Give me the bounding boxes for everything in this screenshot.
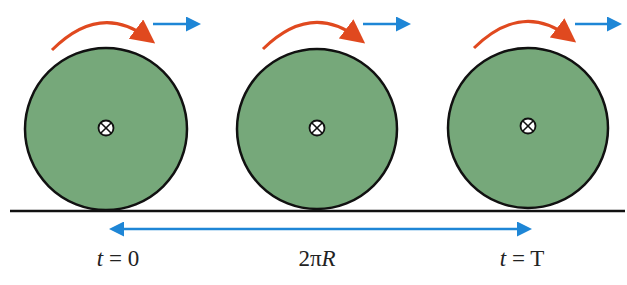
label-rest: = T [506,246,544,271]
rotation-arrow-icon [52,23,148,50]
wheel-t0 [25,23,196,210]
label-distance: 2πR [298,246,335,272]
label-t-end: t = T [500,246,545,272]
into-page-x-icon [521,119,536,134]
label-t-start: t = 0 [97,246,139,272]
into-page-x-icon [310,121,325,136]
wheel-tT [448,21,617,208]
label-var: R [322,246,336,271]
wheel-middle [237,22,406,209]
label-rest: = 0 [103,246,139,271]
rotation-arrow-icon [474,21,569,48]
rotation-arrow-icon [263,22,358,49]
label-prefix: 2π [298,246,321,271]
into-page-x-icon [99,121,114,136]
rolling-wheel-diagram [0,0,627,285]
